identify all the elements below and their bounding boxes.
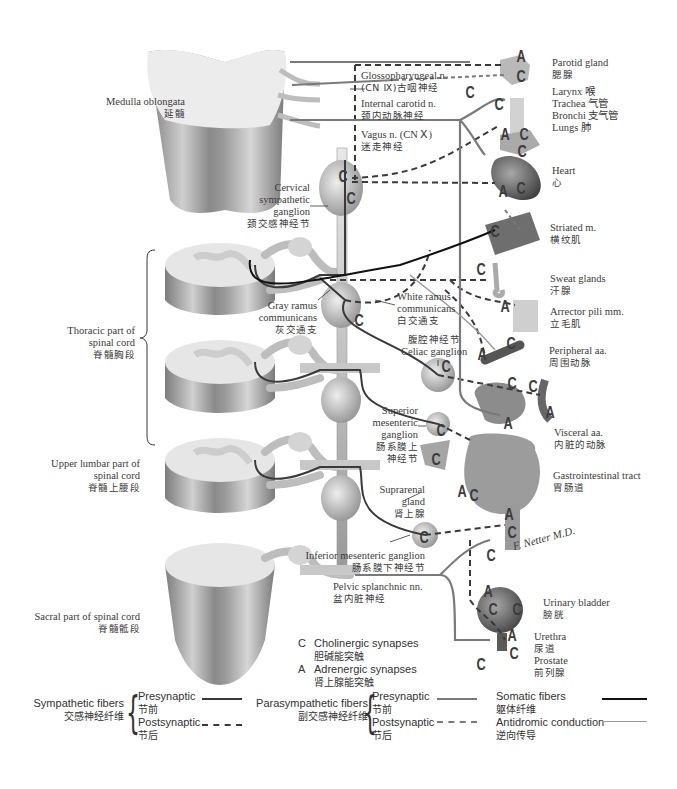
label-zh: 颈交感神经节: [230, 218, 310, 230]
legend-sympathetic-title: Sympathetic fibers 交感神经纤维: [20, 697, 124, 723]
somatic-fibers: [250, 230, 495, 283]
label-en-2: gland: [375, 496, 425, 508]
cholinergic-synapse-marker: C: [339, 168, 348, 186]
cholinergic-synapse-marker: C: [507, 335, 516, 353]
label-en-2: communicans: [245, 312, 317, 324]
label-bronchi: Bronchi 支气管: [552, 110, 618, 122]
adrenergic-synapse-marker: A: [546, 404, 555, 422]
label-en: Visceral aa.: [554, 427, 607, 439]
label-en-1: White ramus: [397, 291, 455, 303]
legend-parasympathetic-post-swatch: [437, 721, 477, 723]
label-arrector-pili: Arrector pili mm. 立毛肌: [550, 306, 624, 330]
thoracic-bracket: [140, 250, 155, 445]
legend-parasympathetic-en: Parasympathetic fibers: [248, 697, 368, 710]
cholinergic-synapse-marker: C: [491, 223, 500, 241]
label-en-1: Thoracic part of: [40, 325, 135, 337]
label-zh: 心: [552, 177, 575, 189]
legend-sympathetic-items: Presynaptic 节前 Postsynaptic 节后: [138, 690, 200, 742]
label-en: Inferior mesenteric ganglion: [290, 550, 425, 562]
cholinergic-synapse-marker: C: [347, 190, 356, 208]
label-heart: Heart 心: [552, 165, 575, 189]
label-zh: 横纹肌: [550, 234, 596, 246]
legend-sympathetic-zh: 交感神经纤维: [20, 710, 124, 723]
cholinergic-zh: 胆碱能突触: [298, 650, 419, 663]
label-en: Arrector pili mm.: [550, 306, 624, 318]
label-en-2: mesenteric: [355, 417, 418, 429]
label-zh: 立毛肌: [550, 318, 624, 330]
label-en-2: spinal cord: [20, 470, 140, 482]
adrenergic-synapse-marker: A: [505, 506, 514, 524]
label-zh: 肾上腺: [375, 508, 425, 520]
label-en-1: Glossopharyngeal n.: [361, 70, 447, 82]
cholinergic-synapse-marker: C: [470, 487, 479, 505]
synapse-key-adrenergic: AAdrenergic synapses: [298, 663, 419, 676]
synapse-key-cholinergic: CCholinergic synapses: [298, 637, 419, 650]
label-zh: 腮腺: [552, 69, 608, 81]
legend-parasympathetic-title: Parasympathetic fibers 副交感神经纤维: [248, 697, 368, 723]
label-zh: 膀胱: [543, 609, 610, 621]
label-en-1: Upper lumbar part of: [20, 458, 140, 470]
label-zh: 肠系膜下神经节: [290, 562, 425, 574]
label-prostate-zh: 前列腺: [534, 667, 568, 679]
label-en-2: sympathetic: [230, 194, 310, 206]
label-en: Gastrointestinal tract: [553, 470, 641, 482]
adrenergic-synapse-marker: A: [499, 183, 508, 201]
adrenergic-synapse-marker: A: [517, 48, 526, 66]
adrenergic-synapse-marker: A: [501, 298, 510, 316]
label-zh: 白交通支: [397, 315, 455, 327]
adrenergic-synapse-marker: A: [478, 346, 487, 364]
legend-parasympathetic-items: Presynaptic 节前 Postsynaptic 节后: [372, 690, 434, 742]
adrenergic-synapse-marker: A: [501, 126, 510, 144]
cholinergic-synapse-marker: C: [355, 312, 364, 330]
cholinergic-synapse-marker: C: [489, 601, 498, 619]
label-en-1: Suprarenal: [375, 484, 425, 496]
legend-sympathetic-post-swatch: [202, 724, 242, 726]
label-glossopharyngeal-nerve: Glossopharyngeal n. (CN Ⅸ)古咽神经: [361, 70, 447, 94]
sweat-gland: [495, 263, 502, 296]
cholinergic-synapse-marker: C: [510, 645, 519, 663]
legend-antidromic-zh: 逆向传导: [496, 729, 604, 742]
label-zh-2: 神经节: [355, 453, 418, 465]
label-upper-lumbar-spinal-cord: Upper lumbar part of spinal cord 脊髓上腰段: [20, 458, 140, 494]
legend-sympathetic-en: Sympathetic fibers: [20, 697, 124, 710]
label-en-3: ganglion: [355, 429, 418, 441]
legend-somatic-swatch: [602, 698, 647, 700]
label-zh: 延髓: [80, 108, 185, 120]
label-en-1: Cervical: [230, 182, 310, 194]
label-zh: 内脏的动脉: [554, 439, 607, 451]
stomach: [475, 383, 526, 424]
label-zh: 灰交通支: [245, 324, 317, 336]
label-en-2: (CN Ⅸ)古咽神经: [361, 82, 447, 94]
label-zh: 脊髓上腰段: [20, 482, 140, 494]
label-medulla-oblongata: Medulla oblongata 延髓: [80, 96, 185, 120]
legend-sympathetic-pre-swatch: [202, 698, 242, 700]
legend-sympathetic-pre: Presynaptic: [138, 690, 200, 703]
cholinergic-en: Cholinergic synapses: [314, 637, 419, 649]
label-internal-carotid-nerve: Internal carotid n. 颈内动脉神经: [361, 98, 436, 122]
label-en: Heart: [552, 165, 575, 177]
label-urethra-zh: 尿道: [534, 643, 568, 655]
label-urethra-en: Urethra: [534, 631, 568, 643]
label-en: Urinary bladder: [543, 597, 610, 609]
label-larynx: Larynx 喉: [552, 86, 618, 98]
adrenergic-en: Adrenergic synapses: [314, 663, 417, 675]
adrenergic-letter: A: [298, 663, 314, 676]
cholinergic-letter: C: [298, 637, 314, 650]
label-zh: 脊髓胸段: [40, 349, 135, 361]
cholinergic-synapse-marker: C: [508, 375, 517, 393]
label-celiac-ganglion: 腹腔神经节 Celiac ganglion: [401, 334, 467, 358]
legend-somatic-antidromic: Somatic fibers 躯体纤维 Antidromic conductio…: [496, 690, 604, 742]
cholinergic-synapse-marker: C: [495, 96, 504, 114]
legend-parasympathetic-pre: Presynaptic: [372, 690, 434, 703]
label-en: Sweat glands: [550, 273, 606, 285]
adrenergic-synapse-marker: A: [504, 415, 513, 433]
cholinergic-synapse-marker: C: [466, 84, 475, 102]
label-zh: 腹腔神经节: [401, 334, 467, 346]
label-en: Sacral part of spinal cord: [10, 611, 140, 623]
label-zh: 迷走神经: [361, 141, 432, 153]
legend-parasympathetic-post-zh: 节后: [372, 729, 434, 742]
legend-sympathetic-post: Postsynaptic: [138, 716, 200, 729]
legend-parasympathetic-post: Postsynaptic: [372, 716, 434, 729]
cholinergic-synapse-marker: C: [517, 180, 526, 198]
legend-sympathetic-pre-zh: 节前: [138, 703, 200, 716]
